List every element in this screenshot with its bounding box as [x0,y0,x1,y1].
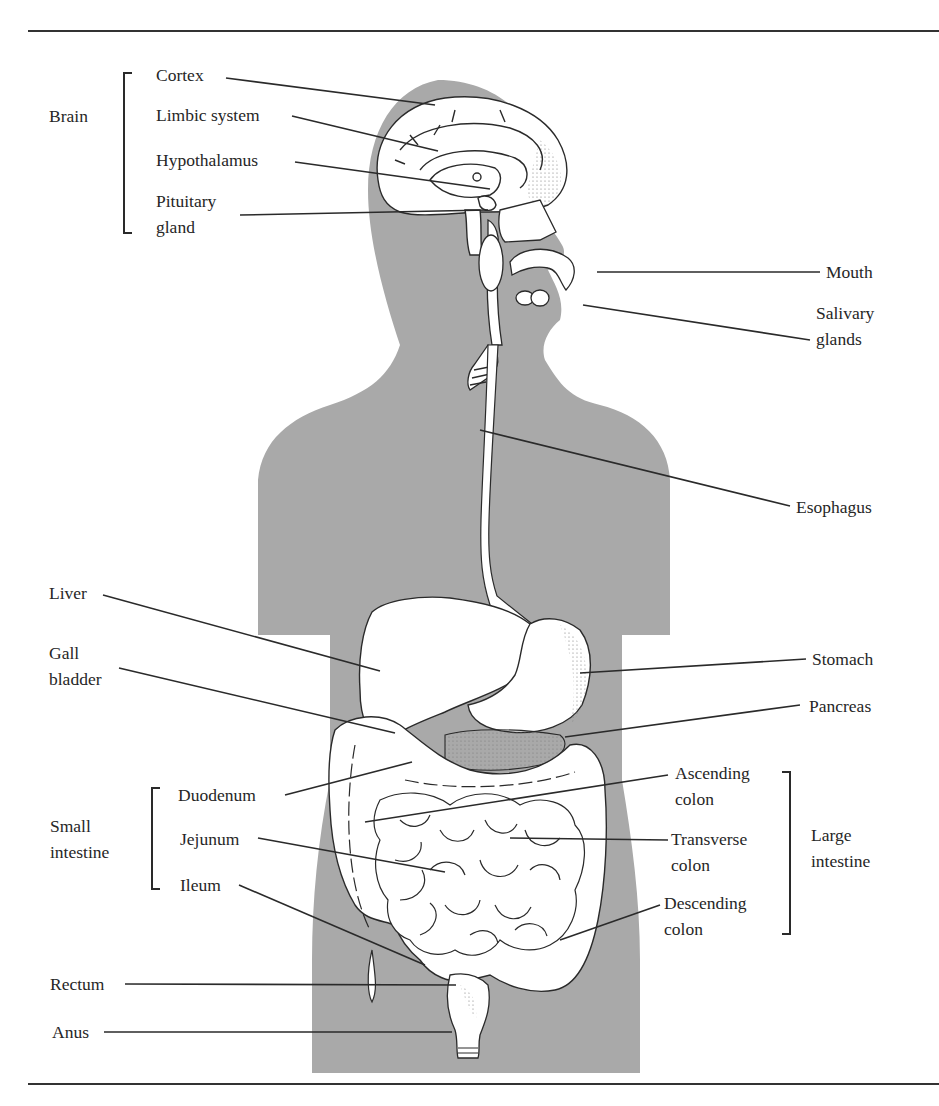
label-pituitary-line2: gland [156,214,216,240]
label-salivary-line2: glands [816,326,874,352]
descending-line1: Descending [664,890,747,916]
label-esophagus: Esophagus [796,494,872,520]
label-cortex: Cortex [156,62,204,88]
group-label-small-intestine: Small intestine [50,813,109,865]
label-ileum: Ileum [180,872,221,898]
label-gall-line2: bladder [49,666,101,692]
label-mouth: Mouth [826,259,873,285]
label-liver: Liver [49,580,87,606]
digestive-system-illustration [0,0,939,1106]
label-pituitary-line1: Pituitary [156,188,216,214]
label-gall-bladder: Gall bladder [49,640,101,692]
group-label-large-intestine: Large intestine [811,822,870,874]
label-limbic-system: Limbic system [156,102,260,128]
ascending-line1: Ascending [675,760,750,786]
large-intestine-bracket [782,771,791,935]
small-intestine-bracket [151,787,160,890]
small-intestine-line1: Small [50,813,109,839]
label-stomach: Stomach [812,646,873,672]
label-salivary-line1: Salivary [816,300,874,326]
label-transverse-colon: Transverse colon [671,826,747,878]
label-descending-colon: Descending colon [664,890,747,942]
label-salivary-glands: Salivary glands [816,300,874,352]
label-hypothalamus: Hypothalamus [156,147,258,173]
label-ascending-colon: Ascending colon [675,760,750,812]
large-intestine-line2: intestine [811,848,870,874]
transverse-line1: Transverse [671,826,747,852]
label-duodenum: Duodenum [178,782,256,808]
label-anus: Anus [52,1019,89,1045]
group-label-brain: Brain [49,103,88,129]
label-pituitary-gland: Pituitary gland [156,188,216,240]
label-jejunum: Jejunum [180,826,239,852]
brain-bracket [123,72,132,234]
label-pancreas: Pancreas [809,693,871,719]
ascending-line2: colon [675,786,750,812]
label-rectum: Rectum [50,971,104,997]
small-intestine-line2: intestine [50,839,109,865]
descending-line2: colon [664,916,747,942]
large-intestine-line1: Large [811,822,870,848]
transverse-line2: colon [671,852,747,878]
label-gall-line1: Gall [49,640,101,666]
